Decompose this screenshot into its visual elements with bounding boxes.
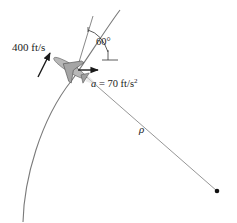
acceleration-value: = 70 ft/s — [96, 78, 134, 89]
acceleration-exponent: 2 — [134, 77, 138, 85]
center-of-curvature-dot — [215, 189, 220, 194]
acceleration-label: a = 70 ft/s2 — [91, 77, 138, 89]
velocity-label: 400 ft/s — [12, 41, 45, 53]
curvilinear-motion-diagram: 400 ft/s 60° a = 70 ft/s2 ρ — [0, 0, 237, 223]
velocity-arrow — [38, 53, 50, 77]
radius-label: ρ — [138, 123, 144, 135]
angle-label: 60° — [96, 36, 111, 47]
